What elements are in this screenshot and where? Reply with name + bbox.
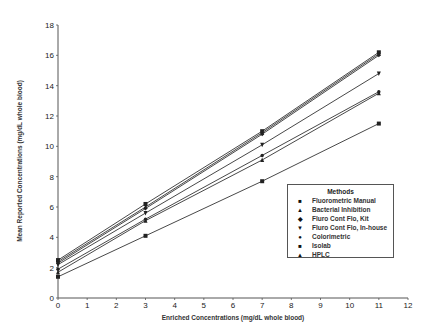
x-tick-label: 4 [172,301,177,310]
y-tick-label: 0 [50,294,55,303]
x-tick-label: 3 [143,301,148,310]
legend-item: ■Isolab [288,241,393,250]
x-tick-label: 5 [202,301,207,310]
chart-canvas: 0123456789101112024681012141618 Enriched… [0,0,430,334]
legend-label: Colorimetric [312,233,350,240]
triangle-up-marker-icon: ▲ [296,207,304,213]
x-tick-label: 0 [56,301,61,310]
legend-title: Methods [288,188,393,195]
x-tick-label: 12 [404,301,413,310]
square-marker-icon: ■ [296,243,304,249]
legend-item: ▲HPLC [288,250,393,259]
y-tick-label: 12 [45,112,54,121]
y-axis-title: Mean Reported Concentrations (mg/dL whol… [16,80,24,242]
triangle-down-marker-icon: ▼ [296,225,304,231]
square-marker-icon: ■ [296,198,304,204]
x-tick-label: 11 [375,301,384,310]
x-tick-label: 9 [318,301,323,310]
x-tick-label: 10 [345,301,354,310]
y-tick-label: 10 [45,142,54,151]
y-tick-label: 2 [50,264,55,273]
legend-item: ◆Fluro Cont Flo, Kit [288,214,393,223]
x-tick-label: 8 [289,301,294,310]
legend-label: Isolab [312,242,331,249]
triangle-up-marker-icon: ▲ [296,252,304,258]
legend-label: HPLC [312,251,330,258]
legend-label: Fluro Cont Flo, In-house [312,224,387,231]
x-tick-label: 7 [260,301,265,310]
legend-item: ●Colorimetric [288,232,393,241]
y-tick-label: 16 [45,51,54,60]
y-tick-label: 14 [45,82,54,91]
y-tick-label: 4 [50,233,55,242]
x-tick-label: 1 [85,301,90,310]
y-tick-label: 6 [50,203,55,212]
x-tick-label: 6 [231,301,236,310]
legend-item: ▲Bacterial Inhibition [288,205,393,214]
legend-item: ■Fluorometric Manual [288,196,393,205]
y-tick-label: 18 [45,21,54,30]
x-axis-title: Enriched Concentrations (mg/dL whole blo… [162,314,305,322]
legend-label: Fluorometric Manual [312,197,376,204]
legend: Methods ■Fluorometric Manual ▲Bacterial … [287,184,394,258]
legend-label: Bacterial Inhibition [312,206,371,213]
axes: 0123456789101112024681012141618 [45,21,413,310]
x-tick-label: 2 [114,301,119,310]
y-tick-label: 8 [50,173,55,182]
legend-label: Fluro Cont Flo, Kit [312,215,369,222]
legend-item: ▼Fluro Cont Flo, In-house [288,223,393,232]
diamond-marker-icon: ◆ [296,215,304,222]
circle-marker-icon: ● [296,234,304,240]
